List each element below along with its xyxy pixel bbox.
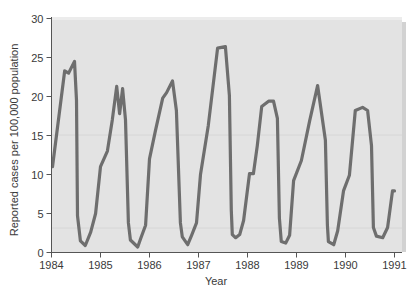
y-axis: 051015202530	[31, 13, 51, 259]
x-tick-label: 1990	[333, 259, 357, 271]
x-tick-label: 1991	[382, 259, 406, 271]
y-tick-label: 0	[37, 247, 43, 259]
line-chart: 051015202530 198419851986198719881989199…	[0, 0, 413, 293]
y-tick-label: 30	[31, 13, 43, 25]
plot-area-top-highlight	[52, 17, 402, 20]
x-axis-title: Year	[205, 275, 228, 287]
y-tick-label: 15	[31, 130, 43, 142]
y-tick-label: 5	[37, 208, 43, 220]
y-tick-label: 10	[31, 169, 43, 181]
x-tick-label: 1985	[88, 259, 112, 271]
y-tick-label: 25	[31, 52, 43, 64]
x-tick-label: 1986	[137, 259, 161, 271]
y-axis-title: Reported cases per 100,000 population	[8, 44, 20, 237]
x-tick-label: 1987	[186, 259, 210, 271]
y-tick-label: 20	[31, 91, 43, 103]
x-axis: 19841985198619871988198919901991	[39, 253, 406, 271]
x-tick-label: 1988	[235, 259, 259, 271]
x-tick-label: 1989	[284, 259, 308, 271]
x-tick-label: 1984	[39, 259, 63, 271]
